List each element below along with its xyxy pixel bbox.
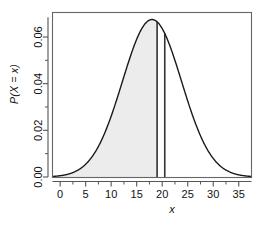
x-axis: 05101520253035 [53, 182, 252, 201]
vertical-reference-lines [157, 22, 165, 177]
y-tick-label: 0.00 [32, 166, 44, 187]
x-tick-label: 35 [233, 188, 245, 200]
x-tick-label: 10 [105, 188, 117, 200]
x-tick-label: 5 [83, 188, 89, 200]
x-tick-label: 30 [207, 188, 219, 200]
shaded-area-group [53, 20, 158, 178]
probability-distribution-chart: P(X = x) x 05101520253035 0.000.020.040.… [0, 0, 266, 225]
shaded-region-fill [53, 20, 158, 178]
plot-canvas: 05101520253035 0.000.020.040.06 [0, 0, 266, 225]
y-tick-label: 0.02 [32, 120, 44, 141]
x-tick-label: 15 [131, 188, 143, 200]
x-tick-label: 25 [182, 188, 194, 200]
x-tick-label: 0 [57, 188, 63, 200]
y-axis: 0.000.020.040.06 [32, 17, 48, 188]
x-tick-label: 20 [156, 188, 168, 200]
y-axis-label: P(X = x) [8, 44, 20, 124]
x-axis-label: x [0, 203, 266, 215]
y-tick-label: 0.04 [32, 73, 44, 94]
y-tick-label: 0.06 [32, 26, 44, 47]
